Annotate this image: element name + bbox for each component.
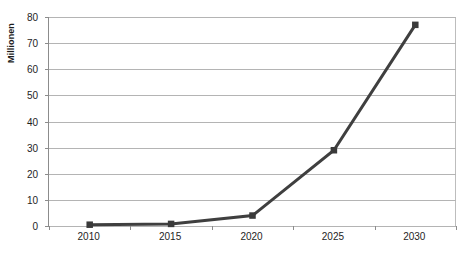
x-tick-mark <box>212 226 213 230</box>
x-axis-tick-labels: 20102015202020252030 <box>48 231 455 247</box>
y-axis-tick-labels: 01020304050607080 <box>10 17 43 226</box>
y-tick-label: 50 <box>10 90 43 101</box>
gridline <box>49 226 456 227</box>
y-tick-label: 60 <box>10 64 43 75</box>
data-point-marker <box>86 221 93 228</box>
data-point-marker <box>412 22 419 29</box>
x-tick-label: 2030 <box>403 231 425 242</box>
x-tick-mark <box>375 226 376 230</box>
y-tick-label: 40 <box>10 116 43 127</box>
series-line <box>90 25 416 225</box>
data-point-marker <box>168 221 175 228</box>
y-tick-label: 10 <box>10 194 43 205</box>
x-tick-label: 2025 <box>322 231 344 242</box>
x-tick-mark <box>293 226 294 230</box>
plot-area <box>48 17 456 227</box>
x-tick-mark <box>130 226 131 230</box>
x-tick-label: 2020 <box>240 231 262 242</box>
y-tick-label: 70 <box>10 38 43 49</box>
y-tick-label: 80 <box>10 12 43 23</box>
x-tick-label: 2010 <box>78 231 100 242</box>
y-tick-label: 0 <box>10 221 43 232</box>
y-tick-label: 20 <box>10 168 43 179</box>
x-tick-mark <box>49 226 50 230</box>
data-point-marker <box>249 212 256 219</box>
x-tick-mark <box>456 226 457 230</box>
line-chart: Millionen 01020304050607080 201020152020… <box>0 0 473 256</box>
y-tick-label: 30 <box>10 142 43 153</box>
data-point-marker <box>331 147 338 154</box>
x-tick-label: 2015 <box>159 231 181 242</box>
data-series <box>49 17 456 226</box>
